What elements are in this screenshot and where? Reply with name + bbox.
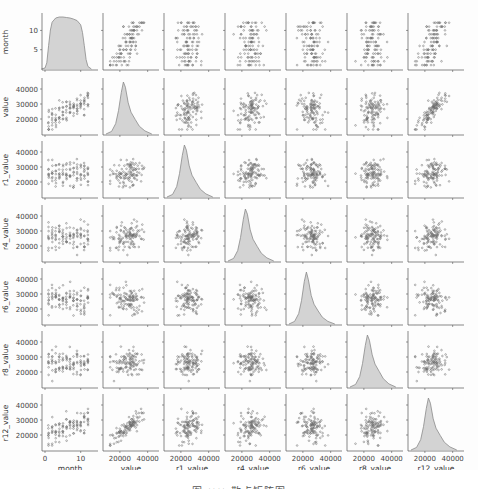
- y-axis-label-r8_value: r8_value: [1, 344, 10, 376]
- scatter-point: [258, 45, 260, 47]
- scatter-point: [367, 225, 369, 227]
- scatter-point: [315, 37, 317, 39]
- panel-value-vs-month: [40, 78, 98, 137]
- scatter-point: [383, 108, 385, 110]
- scatter-point: [69, 293, 71, 295]
- scatter-point: [73, 115, 75, 117]
- scatter-point: [322, 356, 324, 358]
- scatter-point: [119, 287, 121, 289]
- scatter-point: [121, 356, 123, 358]
- scatter-point: [258, 37, 260, 39]
- scatter-point: [304, 41, 306, 43]
- scatter-point: [386, 235, 388, 237]
- scatter-point: [244, 26, 246, 28]
- scatter-point: [444, 235, 446, 237]
- scatter-point: [254, 99, 256, 101]
- scatter-point: [263, 168, 265, 170]
- scatter-point: [296, 445, 298, 447]
- scatter-point: [139, 172, 141, 174]
- scatter-point: [84, 303, 86, 305]
- scatter-point: [386, 103, 388, 105]
- scatter-point: [310, 415, 312, 417]
- scatter-point: [430, 118, 432, 120]
- scatter-point: [435, 49, 437, 51]
- scatter-point: [305, 33, 307, 35]
- scatter-point: [319, 354, 321, 356]
- scatter-point: [51, 180, 53, 182]
- panel-r1_value-vs-r6_value: [284, 141, 342, 200]
- scatter-point: [187, 284, 189, 286]
- scatter-point: [59, 428, 61, 430]
- scatter-point: [296, 230, 298, 232]
- scatter-point: [125, 281, 127, 283]
- scatter-point: [448, 369, 450, 371]
- scatter-point: [380, 232, 382, 234]
- scatter-point: [363, 296, 365, 298]
- scatter-point: [439, 292, 441, 294]
- scatter-point: [260, 367, 262, 369]
- scatter-point: [436, 246, 438, 248]
- scatter-point: [139, 230, 141, 232]
- scatter-point: [187, 95, 189, 97]
- scatter-point: [304, 53, 306, 55]
- scatter-point: [182, 57, 184, 59]
- scatter-point: [305, 37, 307, 39]
- scatter-point: [48, 109, 50, 111]
- scatter-point: [198, 104, 200, 106]
- scatter-point: [77, 235, 79, 237]
- scatter-point: [48, 314, 50, 316]
- y-tick-label: 40000: [16, 149, 38, 157]
- scatter-point: [127, 374, 129, 376]
- scatter-point: [240, 113, 242, 115]
- scatter-point: [308, 419, 310, 421]
- scatter-point: [365, 219, 367, 221]
- scatter-point: [379, 53, 381, 55]
- scatter-point: [315, 364, 317, 366]
- scatter-point: [55, 108, 57, 110]
- scatter-point: [237, 308, 239, 310]
- scatter-point: [260, 117, 262, 119]
- scatter-point: [380, 423, 382, 425]
- panel-r8_value-vs-r12_value: [406, 331, 464, 390]
- scatter-point: [177, 232, 179, 234]
- scatter-point: [355, 60, 357, 62]
- scatter-point: [301, 246, 303, 248]
- scatter-point: [327, 112, 329, 114]
- scatter-point: [369, 30, 371, 32]
- scatter-point: [126, 371, 128, 373]
- scatter-point: [316, 241, 318, 243]
- scatter-point: [319, 57, 321, 59]
- scatter-point: [180, 240, 182, 242]
- scatter-point: [248, 41, 250, 43]
- scatter-point: [51, 359, 53, 361]
- scatter-point: [189, 364, 191, 366]
- scatter-point: [177, 418, 179, 420]
- scatter-point: [190, 371, 192, 373]
- scatter-point: [313, 227, 315, 229]
- scatter-point: [365, 60, 367, 62]
- scatter-point: [439, 361, 441, 363]
- scatter-point: [421, 247, 423, 249]
- scatter-point: [321, 427, 323, 429]
- panel-r6_value-vs-value: [101, 268, 159, 327]
- scatter-point: [126, 353, 128, 355]
- scatter-point: [51, 119, 53, 121]
- scatter-point: [80, 243, 82, 245]
- panel-r1_value-vs-r8_value: [345, 141, 403, 200]
- scatter-point: [237, 64, 239, 66]
- scatter-point: [436, 238, 438, 240]
- scatter-point: [418, 371, 420, 373]
- scatter-point: [414, 180, 416, 182]
- scatter-point: [417, 53, 419, 55]
- scatter-point: [132, 364, 134, 366]
- scatter-point: [55, 289, 57, 291]
- scatter-point: [122, 368, 124, 370]
- scatter-point: [324, 356, 326, 358]
- scatter-point: [115, 354, 117, 356]
- scatter-point: [355, 443, 357, 445]
- scatter-point: [309, 185, 311, 187]
- scatter-point: [434, 162, 436, 164]
- scatter-point: [66, 440, 68, 442]
- scatter-point: [263, 116, 265, 118]
- scatter-point: [306, 116, 308, 118]
